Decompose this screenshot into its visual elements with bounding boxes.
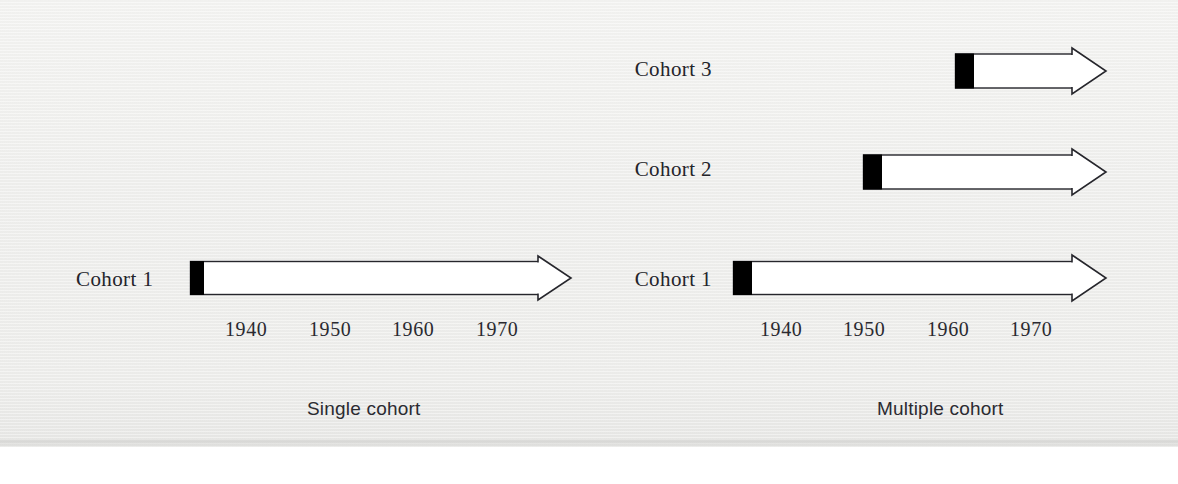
- cohort-arrow-cohort-1-multiple-cohort: [733, 253, 1110, 303]
- cohort-entry-marker: [956, 54, 974, 88]
- cohort-label-cohort-2-multiple-cohort: Cohort 2: [612, 157, 712, 182]
- arrow-shaft: [734, 261, 1073, 294]
- cohort-entry-marker: [864, 155, 882, 189]
- year-tick-1960-multiple-cohort: 1960: [927, 318, 969, 341]
- cohort-label-cohort-1-multiple-cohort: Cohort 1: [612, 267, 712, 292]
- cohort-design-figure: Cohort 11940195019601970Single cohortCoh…: [0, 0, 1178, 484]
- cohort-arrow-cohort-2-multiple-cohort: [863, 147, 1110, 197]
- cohort-arrow-cohort-3-multiple-cohort: [955, 46, 1110, 96]
- panel-caption-multiple-cohort: Multiple cohort: [877, 398, 1004, 420]
- year-tick-1950-multiple-cohort: 1950: [843, 318, 885, 341]
- arrow-shaft: [864, 155, 1073, 189]
- year-tick-1940-multiple-cohort: 1940: [760, 318, 802, 341]
- arrow-head: [1072, 255, 1106, 301]
- cohort-label-cohort-3-multiple-cohort: Cohort 3: [612, 57, 712, 82]
- cohort-entry-marker: [734, 261, 752, 294]
- arrow-head: [1072, 149, 1106, 195]
- panel-multiple-cohort: Cohort 3Cohort 2Cohort 11940195019601970…: [0, 0, 1178, 484]
- year-tick-1970-multiple-cohort: 1970: [1010, 318, 1052, 341]
- arrow-head: [1072, 48, 1106, 94]
